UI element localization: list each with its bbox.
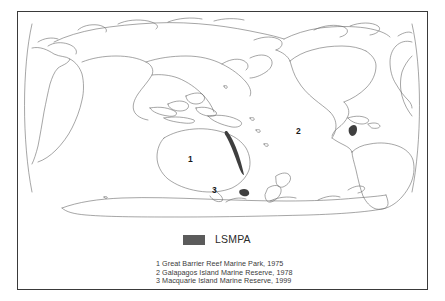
legend-note-3: 3 Macquarie Island Marine Reserve, 1999 (156, 277, 293, 286)
south-asia-coast (82, 56, 153, 120)
central-america (332, 138, 352, 152)
aleutian-arc (276, 50, 290, 61)
southern-island (104, 197, 107, 199)
legend-notes-list: 1 Great Barrier Reef Marine Park, 1975 2… (156, 260, 293, 286)
sulawesi (196, 107, 217, 116)
new-zealand-north (276, 173, 291, 187)
japan (250, 55, 272, 78)
marker-shape-1 (225, 131, 244, 175)
africa-wrap-west (390, 41, 412, 108)
south-america (352, 143, 414, 209)
sumatra (150, 107, 177, 116)
australia (157, 129, 250, 192)
arctic-canada-coast (284, 27, 390, 40)
cuba (348, 116, 369, 124)
map-legend: LSMPA 1 Great Barrier Reef Marine Park, … (18, 224, 426, 288)
marker-shape-2 (349, 125, 357, 136)
southeast-asia-coast (152, 75, 214, 112)
hispaniola (368, 123, 380, 128)
africa-wrap-east (401, 56, 413, 116)
africa-east-coast (38, 59, 84, 162)
eurasia-north-coast (54, 23, 284, 42)
java (164, 117, 195, 123)
new-guinea (208, 115, 242, 127)
marker-shape-3 (239, 189, 249, 196)
world-map: 1 2 3 (18, 12, 426, 222)
legend-key-lsmpa: LSMPA (183, 234, 251, 245)
arctic-islands-1 (168, 18, 202, 22)
figure-root: 1 2 3 LSMPA 1 Great Barrier Reef Marine … (0, 0, 445, 301)
pacific-island-2 (264, 144, 268, 147)
europe-wrap (398, 32, 412, 36)
east-asia-coast (146, 56, 251, 96)
globe-left-limb (25, 24, 33, 192)
antarctica-south-coast (62, 195, 388, 217)
globe-right-limb (412, 24, 420, 192)
alaska-canada-north (290, 46, 366, 61)
korea-japan-north (222, 59, 248, 70)
antarctica-north-coast (62, 195, 386, 208)
legend-swatch-icon (183, 235, 205, 245)
africa-west-coast (32, 47, 70, 164)
map-marker-label-2: 2 (296, 127, 301, 136)
north-america-east-coast (344, 51, 376, 102)
scandinavia (78, 25, 107, 32)
antarctic-peninsula (348, 186, 365, 193)
mediterranean (48, 43, 77, 54)
map-marker-label-3: 3 (212, 186, 217, 195)
kamchatka (254, 37, 282, 50)
canada-arctic-island-2 (350, 23, 380, 35)
north-america-west-coast (290, 61, 330, 112)
legend-key-label: LSMPA (215, 234, 251, 245)
figure-frame: 1 2 3 LSMPA 1 Great Barrier Reef Marine … (17, 11, 428, 290)
philippines (186, 93, 205, 104)
pacific-island-4 (224, 86, 227, 89)
world-map-svg (18, 12, 426, 222)
pacific-island-1 (256, 130, 260, 133)
pacific-island-3 (250, 118, 254, 121)
novaya-zemlya (118, 20, 158, 29)
arctic-islands-2 (214, 19, 244, 21)
map-marker-label-1: 1 (188, 155, 193, 164)
